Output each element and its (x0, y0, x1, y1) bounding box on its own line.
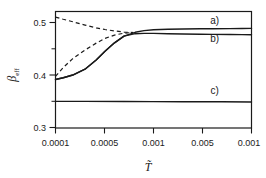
y-axis-ticks (50, 23, 56, 128)
curve-annotations: a) b) c) (210, 15, 219, 96)
curve-b-line (56, 33, 252, 79)
curve-upper-dashed-line (56, 17, 134, 33)
x-tick-labels: 0.0001 0.0005 0.001 0.005 0.001 (42, 138, 261, 148)
y-tick-labels: 0.5 0.4 0.3 (33, 18, 46, 133)
curve-c-line (56, 101, 252, 102)
x-tick-label-4: 0.001 (238, 138, 261, 148)
x-axis-ticks (56, 128, 252, 134)
x-tick-label-2: 0.001 (142, 138, 165, 148)
y-axis-title-beta: β (5, 76, 19, 83)
curve-label-c: c) (210, 85, 218, 96)
chart-figure: 0.5 0.4 0.3 0.0001 0.0005 0.001 0.005 0.… (0, 0, 266, 178)
x-tick-label-1: 0.0005 (91, 138, 119, 148)
chart-svg: 0.5 0.4 0.3 0.0001 0.0005 0.001 0.005 0.… (0, 0, 266, 178)
y-tick-label-1: 0.4 (33, 71, 46, 81)
curve-label-a: a) (210, 15, 219, 26)
x-tick-label-0: 0.0001 (42, 138, 70, 148)
y-axis-title: βeff (5, 68, 21, 83)
curve-a-line (56, 28, 252, 79)
svg-text:βeff: βeff (5, 68, 21, 83)
x-axis-title: T̃ (145, 160, 153, 174)
curves (56, 17, 252, 102)
y-tick-label-2: 0.3 (33, 123, 46, 133)
y-axis-title-subscript: eff (13, 68, 21, 76)
y-tick-label-0: 0.5 (33, 18, 46, 28)
curve-lower-dashed-line (56, 32, 134, 76)
x-tick-label-3: 0.005 (191, 138, 214, 148)
x-axis-title-text: T̃ (145, 160, 153, 174)
curve-label-b: b) (210, 33, 219, 44)
